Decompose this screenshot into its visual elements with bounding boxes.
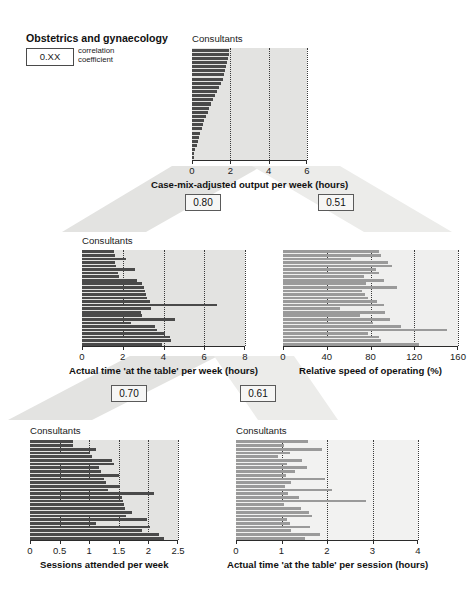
bar bbox=[192, 115, 206, 118]
bar bbox=[30, 470, 101, 473]
x-axis-tick bbox=[148, 540, 149, 544]
bar bbox=[283, 307, 340, 310]
gridline bbox=[269, 48, 270, 160]
bar bbox=[192, 86, 219, 89]
bar bbox=[30, 455, 92, 458]
x-axis-tick-label: 40 bbox=[312, 351, 342, 362]
x-axis-tick-label: 2 bbox=[108, 351, 138, 362]
gridline bbox=[418, 440, 419, 540]
bar bbox=[283, 290, 362, 293]
x-axis-tick-label: 3 bbox=[358, 545, 388, 556]
x-axis-tick bbox=[373, 540, 374, 544]
bar bbox=[30, 526, 150, 529]
x-axis-title: Sessions attended per week bbox=[40, 559, 169, 570]
bar bbox=[30, 489, 108, 492]
chart-relative-speed-of-operating: 04080120160Relative speed of operating (… bbox=[283, 232, 458, 360]
x-axis-tick-label: 0.5 bbox=[45, 545, 75, 556]
bar bbox=[192, 98, 213, 101]
bar bbox=[30, 496, 122, 499]
bar bbox=[30, 511, 132, 514]
bar bbox=[236, 485, 285, 488]
bar bbox=[82, 322, 131, 325]
chart-actual-time-per-week: Consultants02468Actual time 'at the tabl… bbox=[82, 232, 245, 360]
bar bbox=[82, 275, 119, 278]
x-axis-tick-label: 160 bbox=[443, 351, 469, 362]
x-axis-tick-label: 2.5 bbox=[163, 545, 193, 556]
bar bbox=[236, 474, 286, 477]
bar bbox=[283, 329, 447, 332]
bar bbox=[236, 444, 284, 447]
x-axis-tick bbox=[417, 540, 418, 544]
bar bbox=[82, 282, 142, 285]
bar bbox=[82, 311, 141, 314]
bar bbox=[192, 123, 203, 126]
bar bbox=[30, 503, 124, 506]
bar bbox=[236, 492, 288, 495]
bar bbox=[82, 279, 137, 282]
bar bbox=[236, 455, 278, 458]
bar bbox=[283, 318, 390, 321]
bar bbox=[30, 500, 123, 503]
plot-area bbox=[30, 440, 178, 540]
corr-top-left: 0.80 bbox=[185, 194, 221, 211]
x-axis-tick bbox=[283, 346, 284, 350]
bar bbox=[236, 533, 320, 536]
bar bbox=[82, 325, 155, 328]
bar bbox=[283, 297, 368, 300]
gridline bbox=[178, 440, 179, 540]
bar bbox=[283, 272, 379, 275]
bar bbox=[192, 78, 223, 81]
bar bbox=[283, 250, 379, 253]
y-axis-label: Consultants bbox=[82, 235, 133, 246]
gridline bbox=[373, 440, 374, 540]
bar bbox=[82, 318, 175, 321]
x-axis-tick bbox=[414, 346, 415, 350]
x-axis-line bbox=[30, 540, 178, 541]
gridline bbox=[414, 250, 415, 346]
bar bbox=[30, 459, 112, 462]
bar bbox=[192, 132, 200, 135]
x-axis-tick bbox=[192, 160, 193, 164]
bar bbox=[236, 440, 308, 443]
gridline bbox=[230, 48, 231, 160]
bar bbox=[236, 466, 307, 469]
x-axis-tick-label: 120 bbox=[399, 351, 429, 362]
legend-sample-box: 0.XX bbox=[26, 48, 74, 66]
x-axis-tick-label: 8 bbox=[230, 351, 260, 362]
bar bbox=[82, 272, 118, 275]
x-axis-tick bbox=[244, 346, 245, 350]
chart-actual-time-per-session: Consultants01234Actual time 'at the tabl… bbox=[236, 422, 418, 554]
bar bbox=[236, 470, 295, 473]
gridline bbox=[307, 48, 308, 160]
x-axis-tick bbox=[82, 346, 83, 350]
bar bbox=[192, 65, 226, 68]
bar bbox=[82, 300, 150, 303]
bar bbox=[283, 261, 388, 264]
bar bbox=[30, 515, 126, 518]
x-axis-tick-label: 4 bbox=[254, 165, 284, 176]
bar bbox=[283, 304, 384, 307]
bar bbox=[236, 481, 291, 484]
bar bbox=[192, 102, 211, 105]
bar bbox=[82, 329, 157, 332]
x-axis-tick-label: 0 bbox=[268, 351, 298, 362]
chart-case-mix-adjusted-output: Consultants0246Case-mix-adjusted output … bbox=[192, 30, 307, 182]
bar bbox=[192, 82, 221, 85]
y-axis-label: Consultants bbox=[236, 425, 287, 436]
plot-area bbox=[283, 250, 458, 346]
bar bbox=[82, 297, 147, 300]
bar bbox=[30, 518, 147, 521]
x-axis-tick bbox=[230, 160, 231, 164]
bar bbox=[30, 492, 154, 495]
bar bbox=[283, 336, 379, 339]
x-axis-tick-label: 1 bbox=[267, 545, 297, 556]
gridline bbox=[204, 250, 205, 346]
bar bbox=[192, 61, 227, 64]
bar bbox=[236, 500, 366, 503]
gridline bbox=[458, 250, 459, 346]
bar bbox=[82, 261, 115, 264]
page-title: Obstetrics and gynaecology bbox=[26, 32, 168, 44]
x-axis-tick-label: 6 bbox=[189, 351, 219, 362]
bar bbox=[30, 444, 73, 447]
bar bbox=[236, 511, 309, 514]
